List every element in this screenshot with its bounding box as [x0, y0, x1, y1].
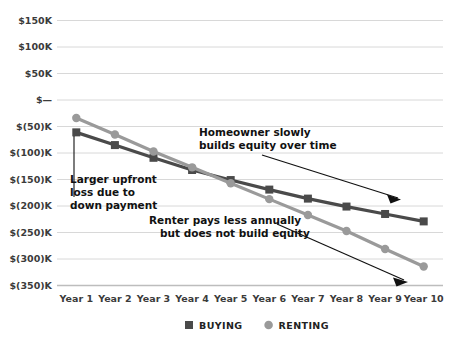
x-axis-tick-label: Year 2: [97, 293, 131, 304]
data-point-marker: [227, 179, 235, 187]
y-axis-tick-label: $(300)K: [10, 253, 53, 264]
annotation-down-payment: Larger upfront loss due to down payment: [70, 173, 157, 211]
y-axis-tick-label: $(50)K: [16, 121, 53, 132]
y-axis-tick-label: $—: [36, 94, 52, 105]
legend-item-renting[interactable]: RENTING: [264, 320, 329, 331]
annotation-line: Larger upfront: [70, 173, 157, 185]
data-point-marker: [111, 141, 119, 149]
x-axis-tick-label: Year 9: [367, 293, 401, 304]
annotation-line: loss due to: [70, 186, 135, 198]
x-axis-tick-label: Year 5: [213, 293, 247, 304]
y-axis-tick-label: $(150)K: [10, 174, 53, 185]
data-point-marker: [342, 227, 350, 235]
data-point-marker: [304, 211, 312, 219]
x-axis-tick-label: Year 8: [329, 293, 364, 304]
data-point-marker: [343, 203, 351, 211]
annotation-line: down payment: [70, 199, 157, 211]
x-axis-tick-label: Year 7: [290, 293, 324, 304]
data-point-marker: [111, 130, 119, 138]
x-axis-tick-label: Year 4: [174, 293, 209, 304]
data-point-marker: [420, 262, 428, 270]
annotation-line: builds equity over time: [199, 139, 337, 151]
buy-vs-rent-chart: $150K$100K$50K$—$(50)K$(100)K$(150)K$(20…: [0, 0, 457, 345]
data-point-marker: [149, 147, 157, 155]
y-axis-tick-label: $50K: [25, 68, 53, 79]
x-axis-tick-label: Year 10: [403, 293, 444, 304]
data-point-marker: [188, 163, 196, 171]
y-axis-tick-label: $100K: [18, 41, 52, 52]
legend-item-buying[interactable]: BUYING: [185, 320, 243, 331]
x-axis-tick-label: Year 3: [136, 293, 170, 304]
y-axis-tick-label: $(200)K: [10, 200, 53, 211]
legend-square-icon: [185, 321, 193, 329]
annotation-line: but does not build equity: [160, 227, 310, 239]
data-point-marker: [265, 195, 273, 203]
y-axis-tick-label: $(100)K: [10, 147, 53, 158]
y-axis-tick-label: $(250)K: [10, 227, 53, 238]
data-point-marker: [72, 114, 80, 122]
y-axis-tick-label: $150K: [18, 15, 52, 26]
data-point-marker: [72, 128, 80, 136]
data-point-marker: [304, 195, 312, 203]
annotation-line: Homeowner slowly: [199, 126, 311, 138]
chart-canvas: $150K$100K$50K$—$(50)K$(100)K$(150)K$(20…: [0, 0, 457, 345]
legend-circle-icon: [264, 321, 273, 330]
x-axis-tick-labels: Year 1Year 2Year 3Year 4Year 5Year 6Year…: [59, 293, 445, 304]
y-axis-tick-labels: $150K$100K$50K$—$(50)K$(100)K$(150)K$(20…: [10, 15, 53, 291]
chart-legend: BUYINGRENTING: [185, 320, 329, 331]
x-axis-tick-label: Year 6: [252, 293, 287, 304]
y-axis-tick-label: $(350)K: [10, 280, 53, 291]
data-point-marker: [381, 245, 389, 253]
x-axis-tick-label: Year 1: [59, 293, 93, 304]
data-point-marker: [265, 186, 273, 194]
legend-label: RENTING: [279, 320, 329, 331]
data-point-marker: [381, 210, 389, 218]
annotation-renter: Renter pays less annually but does not b…: [149, 214, 310, 239]
legend-label: BUYING: [199, 320, 243, 331]
annotation-equity: Homeowner slowly builds equity over time: [199, 126, 337, 151]
annotation-line: Renter pays less annually: [149, 214, 301, 226]
data-point-marker: [420, 217, 428, 225]
